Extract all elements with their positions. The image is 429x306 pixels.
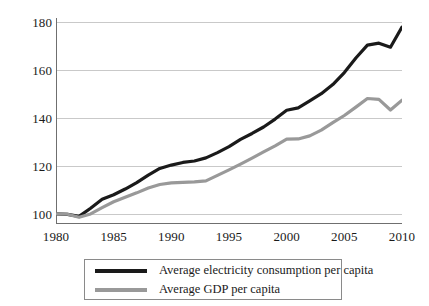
y-tick-label-140: 140 [18, 112, 52, 125]
gridlines [56, 23, 402, 215]
legend-label-electricity: Average electricity consumption per capi… [159, 264, 373, 277]
y-tick-label-100: 100 [18, 208, 52, 221]
y-tick-label-180: 180 [18, 16, 52, 29]
x-tick-label-1995: 1995 [216, 230, 242, 243]
data-series-group [56, 27, 402, 217]
plot-area [56, 18, 402, 224]
x-tick-label-1980: 1980 [43, 230, 69, 243]
y-tick-label-120: 120 [18, 160, 52, 173]
legend-label-gdp: Average GDP per capita [159, 283, 280, 296]
legend-item-electricity: Average electricity consumption per capi… [85, 261, 341, 280]
y-tick-label-160: 160 [18, 64, 52, 77]
x-tick-label-2010: 2010 [389, 230, 415, 243]
line-chart: 180 160 140 120 100 1980 1985 1990 1995 … [0, 0, 429, 306]
legend-item-gdp: Average GDP per capita [85, 280, 341, 299]
x-axis: 1980 1985 1990 1995 2000 2005 2010 [56, 230, 402, 246]
x-tick-label-1985: 1985 [100, 230, 126, 243]
x-tick-label-2005: 2005 [331, 230, 357, 243]
legend: Average electricity consumption per capi… [84, 259, 342, 300]
y-axis: 180 160 140 120 100 [14, 18, 52, 224]
legend-swatch-gdp-icon [95, 288, 147, 292]
x-tick-label-1990: 1990 [158, 230, 184, 243]
plot-svg [56, 18, 402, 224]
x-tick-label-2000: 2000 [273, 230, 299, 243]
legend-swatch-electricity-icon [95, 269, 147, 273]
series-line-gdp [56, 98, 402, 217]
series-line-electricity [56, 27, 402, 216]
axis-lines [56, 18, 402, 224]
